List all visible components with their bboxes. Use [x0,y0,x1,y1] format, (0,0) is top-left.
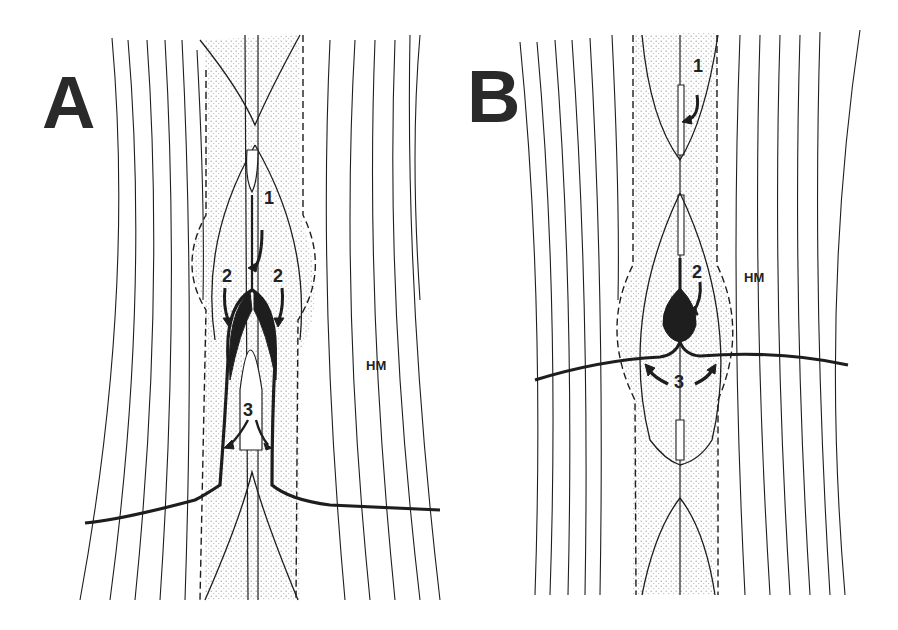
panel-a-drawing [80,35,440,600]
panel-a-arrow-label-1: 1 [264,188,274,209]
panel-b-hm-label: HM [744,270,764,285]
panel-a-hm-label: HM [366,358,386,373]
panel-a-arrow-label-3: 3 [243,400,253,421]
panel-b-arrow-label-1: 1 [693,56,703,77]
muscle-fibers-right [326,35,440,600]
panel-a-arrow-label-2-left: 2 [222,266,232,287]
panel-a-label: A [42,66,95,140]
muscle-fibers-left [80,38,203,600]
muscle-fibers-right-b [736,30,860,595]
panel-a-arrow-label-2-right: 2 [273,266,283,287]
panel-b-drawing [520,30,860,595]
diagram-canvas [0,0,898,630]
panel-b-arrow-label-3: 3 [674,372,684,393]
panel-b-label: B [467,60,520,134]
muscle-fibers-left-b [520,35,618,595]
panel-b-arrow-label-2: 2 [692,262,702,283]
